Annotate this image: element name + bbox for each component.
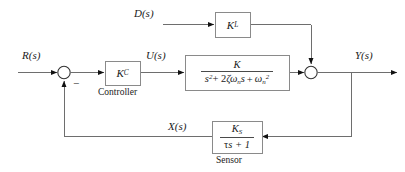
load-gain-subscript: L (234, 21, 238, 29)
error-summing-junction (58, 66, 70, 78)
label-measurement-signal: X(s) (168, 121, 186, 132)
label-reference-signal: R(s) (22, 50, 40, 61)
plant-transfer-function: K s2+ 2ζωns+ωn2 (185, 55, 289, 90)
plant-fraction: K s2+ 2ζωns+ωn2 (201, 59, 273, 87)
label-control-signal: U(s) (146, 50, 166, 61)
label-disturbance-signal: D(s) (134, 8, 154, 19)
sensor-transfer-function: KS τs + 1 (212, 121, 262, 153)
controller-gain-label: KC (105, 61, 140, 85)
sensor-num-k: K (232, 123, 239, 134)
controller-gain-subscript: C (124, 69, 129, 77)
sensor-fraction: KS τs + 1 (220, 123, 254, 150)
controller-caption: Controller (98, 88, 137, 98)
sensor-denominator: τs + 1 (220, 137, 254, 151)
plant-denominator: s2+ 2ζωns+ωn2 (201, 71, 273, 86)
sensor-num-subscript: S (239, 128, 242, 135)
sensor-den-rest: s + 1 (228, 139, 250, 150)
error-junction-minus-sign: − (73, 78, 79, 89)
plant-den-omega2-exponent: 2 (266, 73, 269, 80)
plant-den-plus-two: + 2 (212, 74, 226, 85)
sensor-numerator: KS (220, 123, 254, 137)
controller-gain-k: K (116, 67, 123, 79)
plant-den-plus: + (245, 74, 255, 85)
load-gain-label: KL (215, 12, 250, 37)
label-output-signal: Y(s) (355, 50, 373, 61)
sensor-caption: Sensor (216, 156, 242, 166)
disturbance-summing-junction (305, 66, 317, 78)
plant-numerator: K (201, 59, 273, 72)
block-diagram: R(s) D(s) U(s) Y(s) X(s) − KC Controller… (0, 0, 405, 172)
